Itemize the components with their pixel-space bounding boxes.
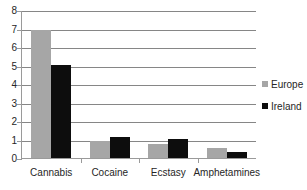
y-axis-tick-mark: [17, 85, 22, 86]
y-axis-tick-mark: [17, 67, 22, 68]
x-axis-tick-mark: [139, 159, 140, 163]
x-axis-category-label: Cannabis: [30, 167, 72, 178]
x-axis-category-label: Ecstasy: [151, 167, 186, 178]
legend-item-ireland: Ireland: [262, 98, 307, 114]
legend-label-ireland: Ireland: [271, 101, 302, 112]
bar-europe-cannabis: [31, 30, 51, 160]
legend-item-europe: Europe: [262, 76, 307, 92]
y-axis-tick-mark: [17, 30, 22, 31]
legend-label-europe: Europe: [271, 79, 303, 90]
y-axis-tick-mark: [17, 122, 22, 123]
chart-legend: Europe Ireland: [262, 76, 307, 120]
bar-europe-cocaine: [90, 141, 110, 160]
bar-ireland-cannabis: [51, 65, 71, 159]
bar-group: [81, 11, 140, 159]
bar-chart: 012345678 Europe Ireland CannabisCocaine…: [0, 0, 307, 190]
bar-group: [22, 11, 81, 159]
y-axis-tick-mark: [17, 11, 22, 12]
y-axis-tick-label: 2: [1, 117, 17, 127]
bar-europe-ecstasy: [148, 144, 168, 159]
y-axis-tick-label: 1: [1, 136, 17, 146]
y-axis-tick-label: 5: [1, 62, 17, 72]
y-axis-tick-label: 0: [1, 154, 17, 164]
plot-area: [22, 11, 256, 159]
y-axis-tick-label: 4: [1, 80, 17, 90]
bar-group: [198, 11, 257, 159]
x-axis-tick-mark: [81, 159, 82, 163]
x-axis-tick-mark: [198, 159, 199, 163]
x-axis-category-label: Amphetamines: [193, 167, 260, 178]
y-axis-tick-label: 6: [1, 43, 17, 53]
bar-ireland-ecstasy: [168, 139, 188, 159]
y-axis-tick-mark: [17, 159, 22, 160]
y-axis-tick-label: 7: [1, 25, 17, 35]
y-axis-tick-mark: [17, 141, 22, 142]
bar-ireland-cocaine: [110, 137, 130, 159]
y-axis-tick-mark: [17, 48, 22, 49]
legend-swatch-europe-icon: [262, 81, 268, 87]
legend-swatch-ireland-icon: [262, 103, 268, 109]
x-axis-category-label: Cocaine: [91, 167, 128, 178]
y-axis-tick-label: 3: [1, 99, 17, 109]
bars-layer: [22, 11, 256, 159]
bar-group: [139, 11, 198, 159]
y-axis-tick-mark: [17, 104, 22, 105]
y-axis-tick-label: 8: [1, 6, 17, 16]
